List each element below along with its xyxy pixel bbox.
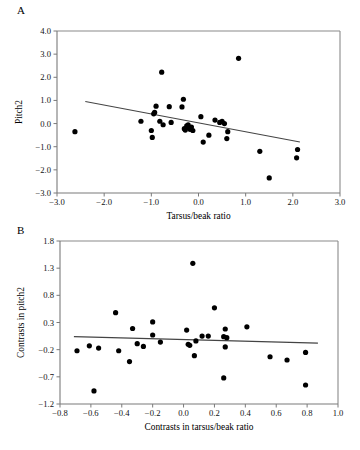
- x-tick-label: −3.0: [49, 197, 65, 207]
- y-tick-label: 1.8: [43, 236, 54, 246]
- x-tick-label: 0.6: [271, 408, 282, 418]
- scientific-figure: A −3.0−2.0−1.00.01.02.03.04.0−3.0−2.0−1.…: [0, 0, 360, 450]
- x-tick-label: 0.0: [193, 197, 204, 207]
- data-point: [222, 121, 227, 126]
- y-tick-label: 1.0: [40, 95, 51, 105]
- data-point: [96, 345, 101, 350]
- data-point: [179, 104, 184, 109]
- x-tick-label: −0.4: [114, 408, 130, 418]
- x-tick-label: 1.0: [240, 197, 251, 207]
- data-point: [212, 118, 217, 123]
- y-tick-label: 0.3: [43, 318, 54, 328]
- data-point: [206, 133, 211, 138]
- data-point: [199, 333, 204, 338]
- data-point: [181, 97, 186, 102]
- data-point: [91, 388, 96, 393]
- data-point: [184, 328, 189, 333]
- data-point: [223, 344, 228, 349]
- x-tick-label: −0.8: [52, 408, 68, 418]
- panel-a: A −3.0−2.0−1.00.01.02.03.04.0−3.0−2.0−1.…: [0, 0, 360, 225]
- data-point: [130, 326, 135, 331]
- data-point: [192, 353, 197, 358]
- x-tick-label: 0.8: [302, 408, 313, 418]
- data-point: [159, 70, 164, 75]
- y-tick-label: −0.7: [38, 372, 54, 382]
- data-point: [201, 139, 206, 144]
- y-tick-label: −2.0: [35, 165, 51, 175]
- data-point: [221, 375, 226, 380]
- y-tick-label: 0.0: [40, 119, 51, 129]
- x-axis-title: Contrasts in tarsus/beak ratio: [144, 422, 253, 432]
- y-tick-label: 0.8: [43, 290, 54, 300]
- data-point: [149, 128, 154, 133]
- data-point: [150, 332, 155, 337]
- data-point: [161, 122, 166, 127]
- data-point: [74, 348, 79, 353]
- x-tick-label: −1.0: [144, 197, 160, 207]
- data-point: [224, 136, 229, 141]
- data-point: [169, 120, 174, 125]
- data-point: [152, 110, 157, 115]
- x-tick-label: 3.0: [335, 197, 346, 207]
- data-point: [303, 350, 308, 355]
- y-tick-label: −1.0: [35, 142, 51, 152]
- data-point: [223, 326, 228, 331]
- x-tick-label: 0.4: [240, 408, 251, 418]
- x-tick-label: 1.0: [333, 408, 344, 418]
- x-axis-title: Tarsus/beak ratio: [166, 211, 230, 221]
- data-point: [198, 114, 203, 119]
- panel-a-plot: −3.0−2.0−1.00.01.02.03.04.0−3.0−2.0−1.00…: [0, 0, 360, 225]
- data-point: [295, 147, 300, 152]
- regression-line: [85, 102, 300, 142]
- data-point: [193, 338, 198, 343]
- data-point: [225, 129, 230, 134]
- data-point: [116, 348, 121, 353]
- data-point: [135, 341, 140, 346]
- data-point: [150, 319, 155, 324]
- y-tick-label: 2.0: [40, 72, 51, 82]
- data-point: [224, 335, 229, 340]
- data-point: [267, 175, 272, 180]
- panel-b-plot: −1.2−0.7−0.20.30.81.31.8−0.8−0.6−0.4−0.2…: [0, 222, 360, 450]
- y-tick-label: 3.0: [40, 49, 51, 59]
- data-point: [244, 324, 249, 329]
- y-tick-label: −0.2: [38, 345, 54, 355]
- data-point: [257, 149, 262, 154]
- y-axis-title: Pitch2: [14, 100, 24, 124]
- y-axis-title: Contrasts in pitch2: [16, 287, 26, 358]
- panel-b: B −1.2−0.7−0.20.30.81.31.8−0.8−0.6−0.4−0…: [0, 222, 360, 450]
- data-point: [167, 104, 172, 109]
- data-point: [113, 310, 118, 315]
- data-point: [190, 128, 195, 133]
- data-point: [206, 333, 211, 338]
- y-tick-label: 1.3: [43, 263, 54, 273]
- x-tick-label: −0.6: [83, 408, 99, 418]
- x-tick-label: 0.0: [178, 408, 189, 418]
- data-point: [294, 155, 299, 160]
- data-point: [87, 343, 92, 348]
- data-point: [127, 359, 132, 364]
- data-point: [187, 343, 192, 348]
- data-point: [236, 56, 241, 61]
- x-tick-label: 2.0: [287, 197, 298, 207]
- data-point: [212, 305, 217, 310]
- data-point: [150, 135, 155, 140]
- y-tick-label: 4.0: [40, 26, 51, 36]
- data-point: [284, 357, 289, 362]
- data-point: [158, 339, 163, 344]
- x-tick-label: −2.0: [96, 197, 112, 207]
- data-point: [141, 344, 146, 349]
- data-point: [267, 354, 272, 359]
- data-point: [303, 382, 308, 387]
- x-tick-label: 0.2: [209, 408, 220, 418]
- data-point: [190, 261, 195, 266]
- data-point: [153, 104, 158, 109]
- data-point: [138, 119, 143, 124]
- x-tick-label: −0.2: [145, 408, 161, 418]
- data-point: [72, 129, 77, 134]
